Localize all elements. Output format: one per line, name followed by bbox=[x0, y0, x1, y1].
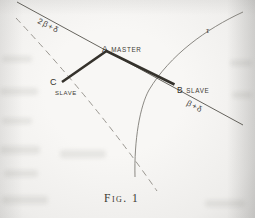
station-c-letter: C bbox=[50, 78, 57, 87]
curve-label: τ bbox=[206, 26, 209, 35]
station-b-label: BSLAVE bbox=[177, 80, 210, 96]
station-c-role: SLAVE bbox=[55, 90, 77, 96]
station-a-role: MASTER bbox=[111, 46, 141, 53]
station-a-label: AMASTER bbox=[102, 39, 142, 55]
scanned-paper-figure: 2β+δ β+δ τ AMASTER BSLAVE C SLAVE Fig. 1 bbox=[0, 0, 255, 218]
figure-caption: Fig. 1 bbox=[104, 193, 139, 205]
station-b-letter: B bbox=[177, 85, 183, 95]
station-baselines bbox=[62, 51, 175, 85]
station-b-role: SLAVE bbox=[186, 87, 209, 94]
station-a-letter: A bbox=[102, 44, 108, 54]
figure-diagram bbox=[0, 0, 255, 218]
